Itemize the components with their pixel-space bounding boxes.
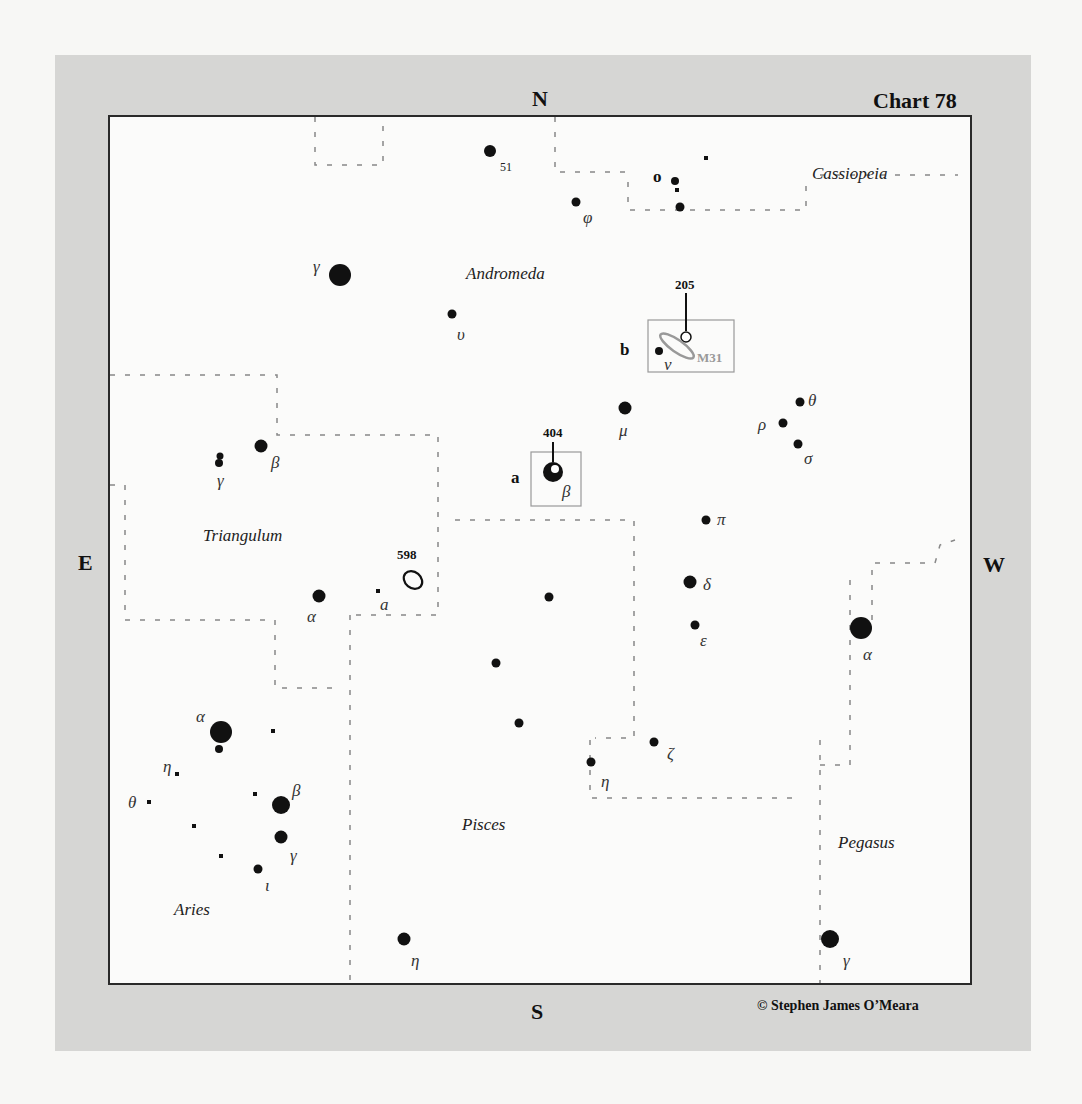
- constellation-pisces: Pisces: [462, 815, 505, 835]
- star-label-and-upsilon: υ: [457, 325, 465, 345]
- star-icon: [587, 758, 596, 767]
- star-icon: [398, 933, 411, 946]
- inset-a-object-number: 404: [543, 425, 563, 441]
- faint-star-icon: [704, 156, 708, 160]
- star-label-and-rho: ρ: [758, 415, 766, 435]
- star-label-psc-eta2: η: [601, 772, 609, 792]
- star-label-tri-alpha: α: [307, 607, 316, 627]
- faint-star-icon: [175, 772, 179, 776]
- faint-star-icon: [271, 729, 275, 733]
- boundary-line: [455, 520, 634, 738]
- star-icon: [676, 203, 685, 212]
- double-star-icon: [217, 453, 224, 460]
- star-label-ari-beta: β: [292, 781, 300, 801]
- inset-a-letter: a: [511, 468, 520, 488]
- boundary-line: [872, 540, 955, 620]
- star-icon: [702, 516, 711, 525]
- star-icon: [545, 593, 554, 602]
- boundary-line: [110, 485, 340, 688]
- star-icon: [619, 402, 632, 415]
- star-icon: [655, 347, 663, 355]
- star-label-and-mu: μ: [619, 421, 628, 441]
- constellation-triangulum: Triangulum: [203, 526, 282, 546]
- star-label-and-sigma: σ: [804, 449, 812, 469]
- direction-south: S: [531, 999, 543, 1025]
- star-icon: [275, 831, 288, 844]
- star-highlight: [551, 465, 559, 473]
- copyright-credit: © Stephen James O’Meara: [757, 998, 919, 1014]
- faint-star-icon: [376, 589, 380, 593]
- faint-star-icon: [219, 854, 223, 858]
- faint-star-icon: [675, 188, 679, 192]
- constellation-andromeda: Andromeda: [466, 264, 545, 284]
- star-label-and-zeta: ζ: [667, 744, 674, 764]
- star-label-and-delta: δ: [703, 575, 711, 595]
- star-label-and-gamma: γ: [313, 257, 320, 277]
- constellation-boundaries: [110, 117, 958, 983]
- constellation-pegasus: Pegasus: [838, 833, 895, 853]
- star-label-peg-alpha: α: [863, 645, 872, 665]
- boundary-line: [590, 740, 795, 798]
- star-icon: [210, 721, 232, 743]
- star-icon: [484, 145, 496, 157]
- deep-sky-objects: [400, 330, 697, 593]
- star-icon: [796, 398, 805, 407]
- faint-star-icon: [253, 792, 257, 796]
- star-label-ari-alpha: α: [196, 707, 205, 727]
- star-icon: [329, 264, 351, 286]
- direction-west: W: [983, 552, 1005, 578]
- galaxy-icon: [400, 567, 426, 592]
- star-icon: [313, 590, 326, 603]
- star-label-and-theta: θ: [808, 391, 816, 411]
- constellation-cassiopeia: Cassiopeia: [812, 164, 888, 184]
- boundary-line: [110, 375, 438, 615]
- star-label-and-nu: ν: [664, 355, 672, 375]
- boundary-line: [315, 117, 383, 165]
- star-label-ari-iota: ι: [265, 876, 270, 896]
- star-icon: [684, 576, 697, 589]
- chart-title: Chart 78: [873, 88, 957, 114]
- star-label-psc-eta: η: [411, 951, 419, 971]
- m31-label: M31: [697, 350, 722, 366]
- star-label-tri-beta: β: [271, 453, 279, 473]
- star-label-ari-eta: η: [163, 757, 171, 777]
- star-icon: [254, 865, 263, 874]
- star-icon: [671, 177, 679, 185]
- faint-star-icon: [147, 800, 151, 804]
- star-icon: [850, 617, 872, 639]
- star-label-and-pi: π: [717, 510, 726, 530]
- star-icon: [255, 440, 268, 453]
- star-label-and-phi: φ: [583, 208, 592, 228]
- star-icon: [572, 198, 581, 207]
- star-label-and-beta: β: [562, 482, 570, 502]
- star-label-and-epsilon: ε: [700, 631, 707, 651]
- star-icon: [448, 310, 457, 319]
- inset-b-object-number: 205: [675, 277, 695, 293]
- star-icon: [215, 745, 223, 753]
- star-icon: [650, 738, 659, 747]
- star-icon: [272, 796, 290, 814]
- boundary-line: [555, 117, 628, 172]
- star-icon: [794, 440, 803, 449]
- star-icon: [691, 621, 700, 630]
- star-label-ari-theta: θ: [128, 793, 136, 813]
- star-label-tri-gamma: γ: [217, 471, 224, 491]
- star-icon: [821, 930, 839, 948]
- star-label-peg-gamma: γ: [843, 951, 850, 971]
- ngc-598-label: 598: [397, 547, 417, 563]
- boundary-line: [820, 570, 850, 765]
- star-label-and-51: 51: [500, 160, 512, 175]
- constellation-aries: Aries: [174, 900, 210, 920]
- open-circle-icon: [681, 332, 691, 342]
- star-map-svg: [0, 0, 1082, 1104]
- direction-north: N: [532, 86, 548, 112]
- faint-star-icon: [192, 824, 196, 828]
- star-label-cas-o: o: [653, 167, 662, 187]
- star-icon: [515, 719, 524, 728]
- inset-b-letter: b: [620, 340, 629, 360]
- star-icon: [492, 659, 501, 668]
- direction-east: E: [78, 550, 93, 576]
- star-label-ari-gamma: γ: [290, 846, 297, 866]
- double-star-icon: [215, 459, 223, 467]
- star-label-tri-a: a: [380, 595, 389, 615]
